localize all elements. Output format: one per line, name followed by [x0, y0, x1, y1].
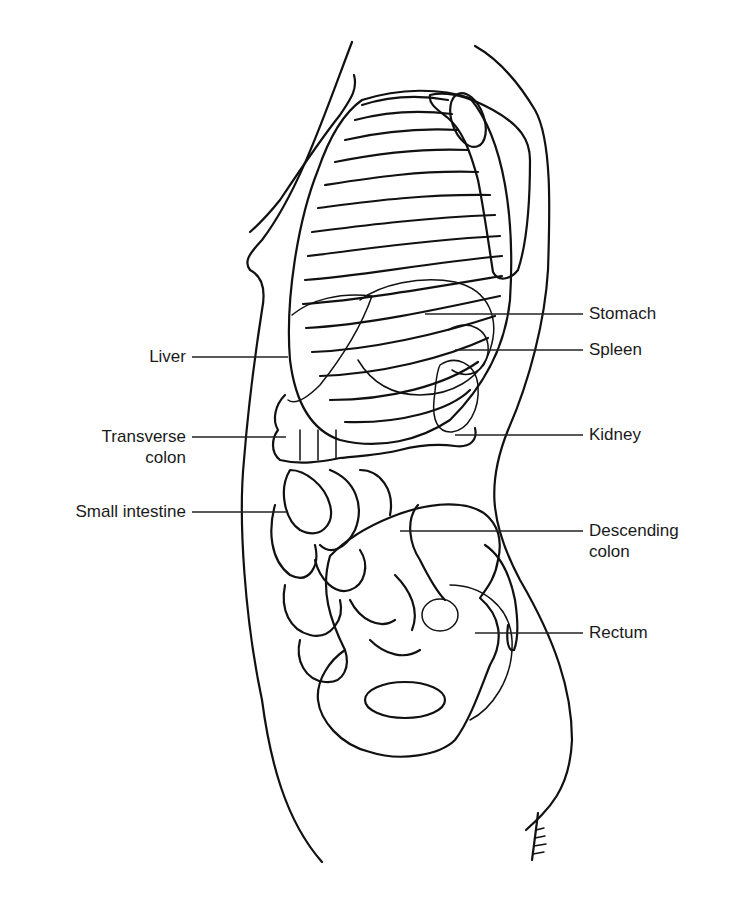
stomach-outline: [358, 280, 494, 395]
label-small-intestine: Small intestine: [75, 501, 186, 522]
chest-outline: [250, 75, 355, 232]
artist-signature: [532, 813, 546, 860]
label-liver: Liver: [149, 346, 186, 367]
anatomy-diagram: Liver Transverse colon Small intestine S…: [0, 0, 738, 907]
rectum-outline: [450, 585, 512, 720]
scapula: [430, 94, 530, 279]
label-descending-colon: Descending colon: [589, 520, 679, 562]
acetabulum: [422, 599, 458, 631]
label-spleen: Spleen: [589, 339, 642, 360]
obturator-foramen: [365, 682, 445, 718]
label-rectum: Rectum: [589, 622, 648, 643]
label-transverse-colon: Transverse colon: [102, 426, 186, 468]
label-stomach: Stomach: [589, 303, 656, 324]
body-outline-back: [475, 46, 572, 830]
descending-colon: [410, 505, 445, 600]
leader-lines: [192, 314, 583, 633]
label-kidney: Kidney: [589, 424, 641, 445]
